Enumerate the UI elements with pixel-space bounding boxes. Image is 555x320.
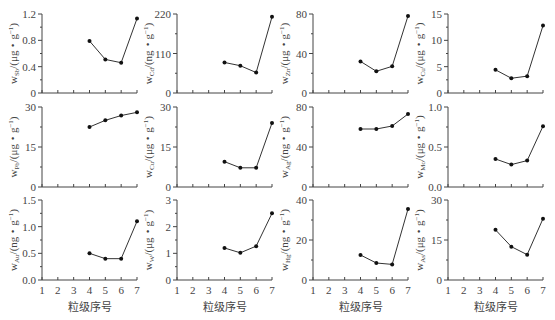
- x-tick-label: 4: [87, 284, 93, 296]
- y-axis-label: wAs/(μg・g−1): [413, 209, 427, 271]
- data-point: [254, 244, 258, 248]
- x-tick-label: 3: [342, 284, 348, 296]
- x-tick-label: 5: [238, 284, 244, 296]
- x-tick-label: 2: [190, 284, 196, 296]
- y-tick-label: 15: [431, 8, 443, 20]
- x-tick-label: 3: [206, 284, 212, 296]
- data-point: [238, 251, 242, 255]
- x-tick-label: 3: [477, 284, 483, 296]
- data-point: [406, 112, 410, 116]
- y-tick-label: 1: [166, 247, 172, 259]
- data-point: [88, 251, 92, 255]
- data-point: [119, 61, 123, 65]
- x-tick-label: 5: [374, 284, 380, 296]
- y-tick-label: 1.0: [22, 221, 36, 233]
- y-axis-label: wPb/(μg・g−1): [7, 116, 21, 177]
- data-line: [361, 114, 409, 129]
- y-tick-label: 0: [166, 274, 172, 286]
- y-tick-label: 80: [296, 101, 308, 113]
- x-tick-label: 7: [540, 284, 546, 296]
- data-line: [361, 209, 409, 264]
- data-line: [225, 123, 273, 168]
- y-axis-label: wAu/(ng・g−1): [7, 209, 21, 271]
- y-tick-label: 40: [296, 141, 308, 153]
- y-tick-label: 10: [431, 34, 443, 46]
- y-tick-label: 2: [166, 221, 172, 233]
- data-point: [103, 118, 107, 122]
- data-point: [254, 166, 258, 170]
- data-line: [225, 213, 273, 252]
- y-axis-label: wMo/(μg・g−1): [413, 115, 427, 179]
- y-tick-label: 0: [31, 181, 37, 193]
- data-point: [359, 127, 363, 131]
- data-point: [238, 166, 242, 170]
- panel-as-11: 123456701530wAs/(μg・g−1)粒级序号: [413, 194, 546, 314]
- panel-cu-3: 051015wCu/(μg・g−1): [413, 8, 545, 99]
- y-tick-label: 30: [160, 101, 172, 113]
- data-point: [103, 57, 107, 61]
- data-point: [509, 245, 513, 249]
- y-tick-label: 15: [431, 234, 443, 246]
- x-axis-title: 粒级序号: [68, 300, 112, 314]
- x-tick-label: 7: [134, 284, 140, 296]
- y-tick-label: 0: [302, 87, 308, 99]
- y-tick-label: 0: [437, 274, 443, 286]
- data-point: [390, 64, 394, 68]
- y-tick-label: 0.5: [428, 141, 442, 153]
- x-tick-label: 6: [118, 284, 124, 296]
- data-line: [90, 221, 138, 258]
- data-point: [541, 24, 545, 28]
- y-tick-label: 40: [296, 48, 308, 60]
- data-point: [119, 114, 123, 118]
- x-tick-label: 1: [310, 284, 316, 296]
- y-tick-label: 40: [296, 194, 308, 206]
- x-tick-label: 5: [103, 284, 109, 296]
- data-point: [406, 14, 410, 18]
- y-tick-label: 0: [31, 87, 37, 99]
- data-point: [374, 69, 378, 73]
- x-tick-label: 6: [524, 284, 530, 296]
- data-point: [525, 74, 529, 78]
- y-tick-label: 0: [437, 87, 443, 99]
- data-point: [359, 59, 363, 63]
- y-tick-label: 15: [25, 141, 37, 153]
- x-tick-label: 5: [509, 284, 515, 296]
- panel-sb-0: 00.40.81.2wSb/(μg・g−1): [7, 8, 139, 99]
- data-point: [494, 68, 498, 72]
- panel-cu-5: 01530wCu/(μg・g−1): [142, 101, 274, 193]
- data-line: [361, 16, 409, 71]
- data-point: [270, 15, 274, 19]
- y-tick-label: 0.0: [22, 274, 36, 286]
- x-axis-title: 粒级序号: [203, 300, 247, 314]
- x-tick-label: 2: [461, 284, 467, 296]
- data-point: [135, 17, 139, 21]
- x-tick-label: 3: [71, 284, 77, 296]
- panel-cd-1: 0110220wCd/(ng・g−1): [142, 8, 274, 99]
- panel-au-8: 12345670.00.51.01.5wAu/(ng・g−1)粒级序号: [7, 194, 140, 314]
- x-tick-label: 6: [389, 284, 395, 296]
- panel-hg-10: 123456702040wHg/(ng・g−1)粒级序号: [278, 194, 411, 314]
- y-tick-label: 0: [166, 87, 172, 99]
- x-tick-label: 7: [269, 284, 275, 296]
- y-tick-label: 1.5: [22, 194, 36, 206]
- x-tick-label: 4: [222, 284, 228, 296]
- data-point: [254, 71, 258, 75]
- data-line: [496, 219, 544, 255]
- data-point: [494, 157, 498, 161]
- y-axis-label: wZn/(μg・g−1): [278, 22, 292, 84]
- y-tick-label: 20: [296, 234, 308, 246]
- data-point: [541, 217, 545, 221]
- y-tick-label: 0.4: [22, 61, 36, 73]
- data-point: [509, 76, 513, 80]
- y-axis-label: wCd/(ng・g−1): [142, 22, 156, 84]
- data-point: [374, 127, 378, 131]
- panel-w-9: 12345670123wW/(μg・g−1)粒级序号: [142, 194, 275, 314]
- data-point: [541, 124, 545, 128]
- y-tick-label: 0: [302, 274, 308, 286]
- chart-grid: 00.40.81.2wSb/(μg・g−1)0110220wCd/(ng・g−1…: [0, 0, 555, 320]
- y-tick-label: 15: [160, 141, 172, 153]
- data-point: [374, 261, 378, 265]
- data-point: [406, 207, 410, 211]
- y-tick-label: 0: [166, 181, 172, 193]
- y-tick-label: 3: [166, 194, 172, 206]
